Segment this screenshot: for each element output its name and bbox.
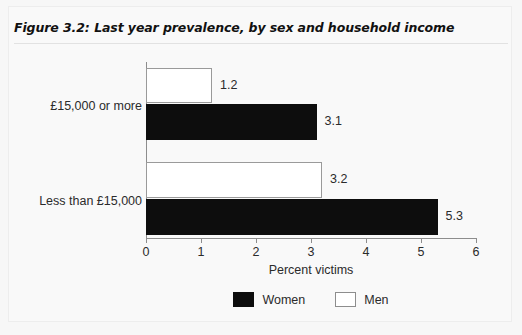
chart-legend: Women Men xyxy=(146,292,476,307)
bar-men xyxy=(146,68,212,103)
category-label-text: Less than £15,000 xyxy=(2,194,142,208)
filled-black-swatch-icon xyxy=(233,292,254,307)
x-axis-tick-label: 0 xyxy=(134,245,158,259)
bar-women xyxy=(146,104,317,140)
x-axis-tick xyxy=(476,238,477,243)
legend-item-men: Men xyxy=(335,292,388,307)
x-axis-tick xyxy=(201,238,202,243)
legend-label: Men xyxy=(364,293,388,307)
x-axis-tick xyxy=(146,238,147,243)
x-axis-tick xyxy=(421,238,422,243)
category-label-text: £15,000 or more xyxy=(2,99,142,113)
x-axis-title: Percent victims xyxy=(146,263,476,277)
x-axis-tick xyxy=(366,238,367,243)
legend-label: Women xyxy=(262,293,305,307)
legend-item-women: Women xyxy=(233,292,305,307)
x-axis-tick-label: 3 xyxy=(299,245,323,259)
bar-value-label: 5.3 xyxy=(446,209,463,223)
x-axis-tick-label: 1 xyxy=(189,245,213,259)
bar-value-label: 3.2 xyxy=(330,172,347,186)
x-axis-tick-label: 6 xyxy=(464,245,488,259)
x-axis-tick-label: 4 xyxy=(354,245,378,259)
bar-value-label: 3.1 xyxy=(325,114,342,128)
figure-container: Figure 3.2: Last year prevalence, by sex… xyxy=(0,0,522,335)
x-axis-tick-label: 2 xyxy=(244,245,268,259)
bar-women xyxy=(146,199,438,235)
x-axis-tick-label: 5 xyxy=(409,245,433,259)
outlined-white-swatch-icon xyxy=(335,292,356,307)
x-axis-tick xyxy=(256,238,257,243)
bar-value-label: 1.2 xyxy=(220,78,237,92)
chart-plot-area: 0123456 1.23.13.25.3 £15,000 or more Les… xyxy=(0,0,522,335)
bar-men xyxy=(146,162,322,198)
x-axis-tick xyxy=(311,238,312,243)
